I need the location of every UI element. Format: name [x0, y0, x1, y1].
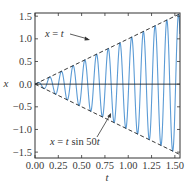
- annotation-x-equals-t-sin-50t: x = t sin 50t: [49, 136, 101, 147]
- annotation2-var-t2: t: [97, 136, 101, 147]
- y-tick-label: −1.5: [13, 147, 32, 158]
- annotation-arrow-x-equals-t-sin-50t: [97, 115, 110, 137]
- chart: 0.000.250.500.751.001.251.50−1.5−1.0−0.5…: [0, 0, 186, 184]
- annotation2-sin: sin 50: [69, 136, 97, 147]
- x-tick-label: 0.50: [72, 160, 90, 171]
- y-tick-label: 1.0: [19, 33, 32, 44]
- annotation-x-equals-t: x = t: [44, 28, 65, 39]
- annotation-arrowhead-x-equals-t-sin-50t: [107, 113, 111, 118]
- y-tick-label: −0.5: [13, 101, 32, 112]
- x-tick-label: 0.25: [49, 160, 67, 171]
- x-axis-label: t: [105, 171, 109, 183]
- annotation-arrowhead-x-equals-t: [85, 37, 91, 41]
- x-tick-label: 1.00: [119, 160, 137, 171]
- x-tick-label: 1.25: [142, 160, 160, 171]
- x-tick-label: 0.75: [96, 160, 114, 171]
- annotation2-eq: =: [55, 136, 66, 147]
- x-tick-label: 1.50: [166, 160, 184, 171]
- annotation-eq: =: [50, 28, 61, 39]
- y-tick-label: 0.0: [19, 79, 32, 90]
- y-axis-label: x: [3, 77, 9, 89]
- y-tick-label: 1.5: [19, 11, 32, 22]
- y-tick-label: −1.0: [13, 124, 32, 135]
- x-tick-label: 0.00: [26, 160, 44, 171]
- annotation-var-t: t: [61, 28, 65, 39]
- y-tick-label: 0.5: [19, 56, 32, 67]
